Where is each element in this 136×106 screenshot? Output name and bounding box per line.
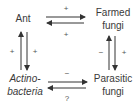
node-ant: Ant [13,13,33,25]
node-farmed-fungi-line2: fungi [93,20,133,32]
sign-actino-to-parasitic: − [62,70,72,78]
sign-ant-to-actino: + [30,48,40,56]
node-actinobacteria-line1: Actino- [3,73,47,85]
sign-parasitic-to-farmed: − [96,49,106,57]
sign-farmed-to-parasitic: + [119,49,129,57]
sign-ant-to-farmed: + [61,5,71,13]
sign-actino-to-ant: + [7,48,17,56]
node-parasitic-fungi-line2: fungi [91,86,135,98]
node-parasitic-fungi-line1: Parasitic [91,73,135,85]
sign-parasitic-to-actino: ? [62,95,72,103]
sign-farmed-to-ant: + [61,31,71,39]
node-actinobacteria-line2: bacteria [3,86,47,98]
node-farmed-fungi-line1: Farmed [93,7,133,19]
